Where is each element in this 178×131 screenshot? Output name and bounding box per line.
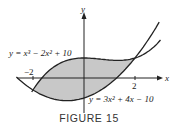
upper-curve-label: y = x³ − 2x² + 10 [8,48,72,58]
figure-caption: FIGURE 15 [0,112,178,124]
x-axis-label: x [164,73,169,83]
tick-label-pos2: 2 [132,81,137,91]
y-axis-label: y [80,4,85,14]
x-axis-arrow-icon [157,76,163,81]
lower-curve-label: y = 3x² + 4x − 10 [88,94,154,104]
tick-label-neg2: −2 [24,67,34,77]
